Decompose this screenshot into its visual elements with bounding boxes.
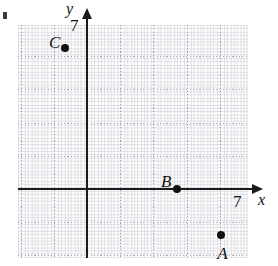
point-label-b: B	[161, 173, 171, 190]
x-axis-label: x	[258, 192, 265, 208]
gridline-vertical	[120, 25, 121, 258]
gridline-horizontal	[18, 156, 248, 157]
data-point-c	[61, 44, 69, 52]
grid-area	[18, 25, 248, 258]
page-edge-mark	[3, 12, 7, 19]
point-label-a: A	[217, 245, 227, 262]
coordinate-plane-figure: 7 7 x y CBA	[0, 0, 278, 266]
x-axis-tick-label: 7	[233, 193, 242, 210]
point-label-c: C	[49, 34, 60, 51]
y-axis-line	[86, 18, 88, 258]
x-axis-line	[18, 188, 252, 190]
gridline-vertical	[220, 25, 221, 258]
data-point-b	[173, 185, 181, 193]
gridline-horizontal	[18, 56, 248, 57]
y-axis-tick-label: 7	[70, 17, 79, 34]
gridline-horizontal	[18, 222, 248, 223]
gridline-vertical	[153, 25, 154, 258]
gridline-horizontal	[18, 89, 248, 90]
gridline-vertical	[187, 25, 188, 258]
gridline-horizontal	[18, 123, 248, 124]
y-axis-label: y	[66, 1, 73, 17]
gridline-horizontal	[18, 255, 248, 256]
y-axis-arrow	[82, 8, 92, 19]
